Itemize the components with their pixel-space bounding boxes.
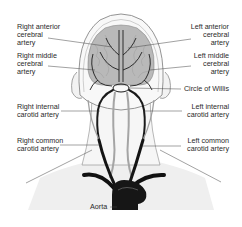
label-right-common-carotid-artery: Right common carotid artery <box>17 137 63 153</box>
label-right-middle-cerebral-artery: Right middle cerebral artery <box>17 52 57 77</box>
label-left-anterior-cerebral-artery: Left anterior cerebral artery <box>191 23 229 48</box>
label-right-anterior-cerebral-artery: Right anterior cerebral artery <box>17 23 60 48</box>
label-left-internal-carotid-artery: Left internal carotid artery <box>187 103 229 119</box>
label-aorta: Aorta <box>90 203 107 211</box>
label-circle-of-willis: Circle of Willis <box>184 85 229 93</box>
artery-diagram: Right anterior cerebral artery Right mid… <box>0 0 242 227</box>
label-right-internal-carotid-artery: Right internal carotid artery <box>17 103 59 119</box>
label-left-middle-cerebral-artery: Left middle cerebral artery <box>194 52 229 77</box>
label-left-common-carotid-artery: Left common carotid artery <box>187 137 229 153</box>
